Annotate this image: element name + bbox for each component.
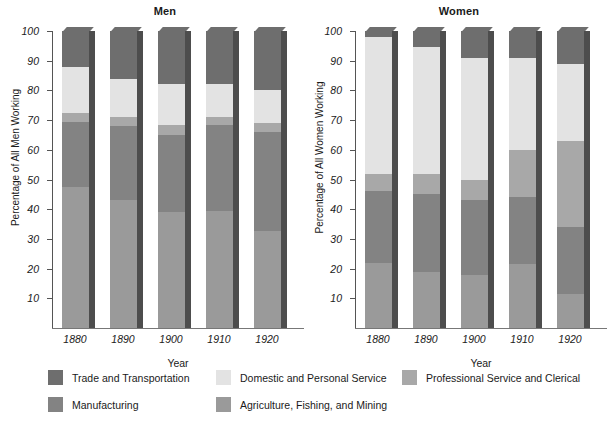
y-tick: 100 xyxy=(47,31,52,32)
bar-segment xyxy=(509,150,536,198)
bar-segment xyxy=(158,135,185,212)
bar-top-face xyxy=(510,27,541,31)
y-tick: 90 xyxy=(47,61,52,62)
bar-top-face xyxy=(63,27,94,31)
bar-segment xyxy=(158,212,185,328)
bar-segment xyxy=(62,67,89,113)
bar-side-shadow xyxy=(233,31,239,328)
y-axis-label-women: Percentage of All Women Working xyxy=(314,43,325,273)
bar-segment xyxy=(206,211,233,328)
panel-title-men: Men xyxy=(0,5,305,17)
bar-segment xyxy=(62,187,89,328)
bar-segment xyxy=(461,275,488,328)
chart-panel-men: Men Percentage of All Men Working 102030… xyxy=(0,0,305,362)
bar-segment xyxy=(509,31,536,58)
legend-swatch xyxy=(48,397,63,412)
bar-segment xyxy=(206,84,233,117)
stacked-bar xyxy=(110,31,137,328)
stacked-bar xyxy=(461,31,488,328)
bar-segment xyxy=(365,263,392,328)
bar-segment xyxy=(413,47,440,173)
y-tick: 20 xyxy=(47,269,52,270)
bar-segment xyxy=(557,31,584,64)
y-tick: 30 xyxy=(350,239,355,240)
legend-item: Agriculture, Fishing, and Mining xyxy=(216,397,387,412)
bar-segment xyxy=(206,31,233,84)
stacked-bar xyxy=(158,31,185,328)
bar-side-shadow xyxy=(89,31,95,328)
bar-segment xyxy=(461,180,488,201)
bar-top-face xyxy=(462,27,493,31)
legend-swatch xyxy=(48,370,63,385)
y-tick-label: 40 xyxy=(27,203,39,215)
y-tick-label: 10 xyxy=(27,292,39,304)
plot-area-men: 102030405060708090100 188018901900191019… xyxy=(52,31,292,328)
bar-segment xyxy=(62,31,89,67)
y-tick: 80 xyxy=(47,90,52,91)
bar-segment xyxy=(158,84,185,124)
legend-label: Domestic and Personal Service xyxy=(240,372,386,384)
legend-item: Professional Service and Clerical xyxy=(402,370,580,385)
legend-label: Trade and Transportation xyxy=(72,372,190,384)
bar-top-face xyxy=(255,27,286,31)
bar-segment xyxy=(62,122,89,187)
stacked-bar xyxy=(365,31,392,328)
legend-item: Domestic and Personal Service xyxy=(216,370,386,385)
bar-top-face xyxy=(159,27,190,31)
bar-side-shadow xyxy=(137,31,143,328)
bar-segment xyxy=(413,31,440,47)
y-tick: 50 xyxy=(350,180,355,181)
y-tick: 70 xyxy=(350,120,355,121)
bar-segment xyxy=(206,125,233,211)
bar-segment xyxy=(461,58,488,180)
bar-segment xyxy=(365,191,392,262)
bar-segment xyxy=(557,294,584,328)
bar-segment xyxy=(110,79,137,118)
bar-top-face xyxy=(414,27,445,31)
y-tick-label: 80 xyxy=(330,84,342,96)
bar-segment xyxy=(461,31,488,58)
y-tick-label: 70 xyxy=(27,114,39,126)
stacked-bar xyxy=(206,31,233,328)
stacked-bar xyxy=(557,31,584,328)
panel-title-women: Women xyxy=(297,5,603,17)
bar-top-face xyxy=(207,27,238,31)
y-tick-label: 60 xyxy=(27,144,39,156)
y-tick-label: 50 xyxy=(27,174,39,186)
chart-panel-women: Women Percentage of All Women Working 10… xyxy=(297,0,603,362)
y-tick-label: 70 xyxy=(330,114,342,126)
y-tick: 40 xyxy=(47,209,52,210)
bar-segment xyxy=(557,227,584,294)
legend-item: Trade and Transportation xyxy=(48,370,190,385)
bar-segment xyxy=(365,37,392,174)
bar-top-face xyxy=(366,27,397,31)
y-tick: 100 xyxy=(350,31,355,32)
y-tick: 70 xyxy=(47,120,52,121)
bar-top-face xyxy=(111,27,142,31)
y-tick-label: 80 xyxy=(27,84,39,96)
y-tick: 10 xyxy=(47,298,52,299)
bar-side-shadow xyxy=(392,31,398,328)
bar-segment xyxy=(254,90,281,123)
bar-top-face xyxy=(558,27,589,31)
y-tick: 30 xyxy=(47,239,52,240)
y-tick-label: 30 xyxy=(27,233,39,245)
bar-segment xyxy=(413,174,440,195)
y-tick-label: 20 xyxy=(330,263,342,275)
y-tick-label: 90 xyxy=(27,55,39,67)
bar-side-shadow xyxy=(584,31,590,328)
y-tick-label: 10 xyxy=(330,292,342,304)
y-tick-label: 20 xyxy=(27,263,39,275)
stacked-bar xyxy=(509,31,536,328)
bar-segment xyxy=(413,272,440,328)
bar-segment xyxy=(461,200,488,274)
stacked-bar xyxy=(413,31,440,328)
bar-segment xyxy=(110,126,137,200)
bar-side-shadow xyxy=(281,31,287,328)
y-tick-label: 40 xyxy=(330,203,342,215)
bar-segment xyxy=(254,231,281,328)
bar-segment xyxy=(509,58,536,150)
legend-label: Manufacturing xyxy=(72,399,139,411)
bar-segment xyxy=(413,194,440,271)
y-tick-label: 100 xyxy=(21,25,39,37)
